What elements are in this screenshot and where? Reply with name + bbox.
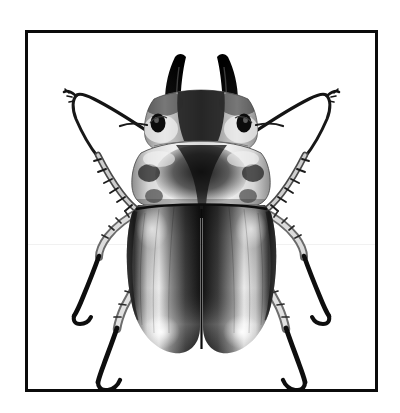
specimen-plate: stag-beetle xyxy=(28,33,375,389)
right-antenna xyxy=(256,124,283,126)
elytra xyxy=(123,201,280,359)
left-antenna xyxy=(120,124,147,126)
screenshot-canvas: stag-beetle xyxy=(0,0,400,413)
beetle-specimen xyxy=(28,33,375,389)
image-frame: stag-beetle xyxy=(25,30,378,392)
pronotum xyxy=(128,141,275,207)
